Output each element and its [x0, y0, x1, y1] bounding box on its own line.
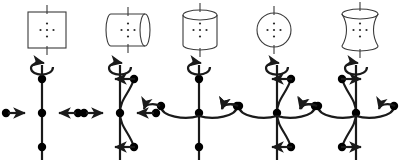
- panel-e: [301, 2, 398, 160]
- spin-diagram-e: [301, 63, 398, 160]
- nucleon-dot: [46, 35, 48, 37]
- panel-a: [2, 5, 82, 160]
- nucleon-dot: [199, 29, 201, 31]
- shape-square-box: [28, 5, 66, 55]
- nucleon-dot: [46, 22, 48, 24]
- nucleon-dot: [266, 29, 268, 31]
- nucleon-dot: [359, 35, 361, 37]
- nucleon-dot: [273, 35, 275, 37]
- nucleon-dot: [365, 29, 367, 31]
- panel-c: [144, 3, 241, 160]
- centre-dot: [116, 109, 124, 117]
- nucleon-dot: [273, 29, 275, 31]
- spin-diagram-a: [2, 63, 82, 160]
- shape-top-ellipse: [183, 15, 217, 20]
- axial-dot-top: [38, 75, 46, 83]
- nucleon-dot: [273, 22, 275, 24]
- nucleon-dot: [192, 29, 194, 31]
- axial-dot-bottom: [38, 143, 46, 151]
- nucleon-dot: [359, 22, 361, 24]
- horizontal-curve-left: [161, 106, 199, 118]
- nucleon-dot: [352, 29, 354, 31]
- nucleon-dot: [46, 29, 48, 31]
- shape-vertical-cylinder: [183, 3, 217, 57]
- nuclear-shape-spin-figure: [0, 0, 399, 160]
- spin-diagram-d: [222, 63, 319, 160]
- nucleon-dot: [199, 35, 201, 37]
- nucleon-dot: [127, 35, 129, 37]
- horizontal-curve-left: [318, 106, 356, 118]
- nucleon-dot: [199, 22, 201, 24]
- nucleon-dot: [133, 29, 135, 31]
- nucleon-dot: [205, 29, 207, 31]
- shape-end-ellipse: [140, 14, 145, 46]
- axial-dot-top: [195, 75, 203, 83]
- shape-horizontal-cylinder: [106, 7, 150, 53]
- shape-hourglass-waisted-cylinder: [342, 2, 378, 58]
- nucleon-dot: [120, 29, 122, 31]
- spin-diagram-b: [80, 63, 160, 160]
- nucleon-dot: [359, 29, 361, 31]
- horizontal-curve-right: [356, 106, 394, 118]
- axial-dot-bottom: [195, 143, 203, 151]
- shape-top-ellipse: [342, 14, 378, 19]
- horizontal-curve-right: [277, 106, 315, 118]
- panel-b: [80, 7, 160, 160]
- nucleon-dot: [127, 29, 129, 31]
- centre-dot: [38, 109, 46, 117]
- nucleon-dot: [39, 29, 41, 31]
- horizontal-curve-left: [239, 106, 277, 118]
- nucleon-dot: [52, 29, 54, 31]
- horizontal-curve-right: [199, 106, 237, 118]
- shape-sphere-circle: [257, 6, 291, 54]
- panel-d: [222, 6, 319, 160]
- nucleon-dot: [127, 22, 129, 24]
- nucleon-dot: [279, 29, 281, 31]
